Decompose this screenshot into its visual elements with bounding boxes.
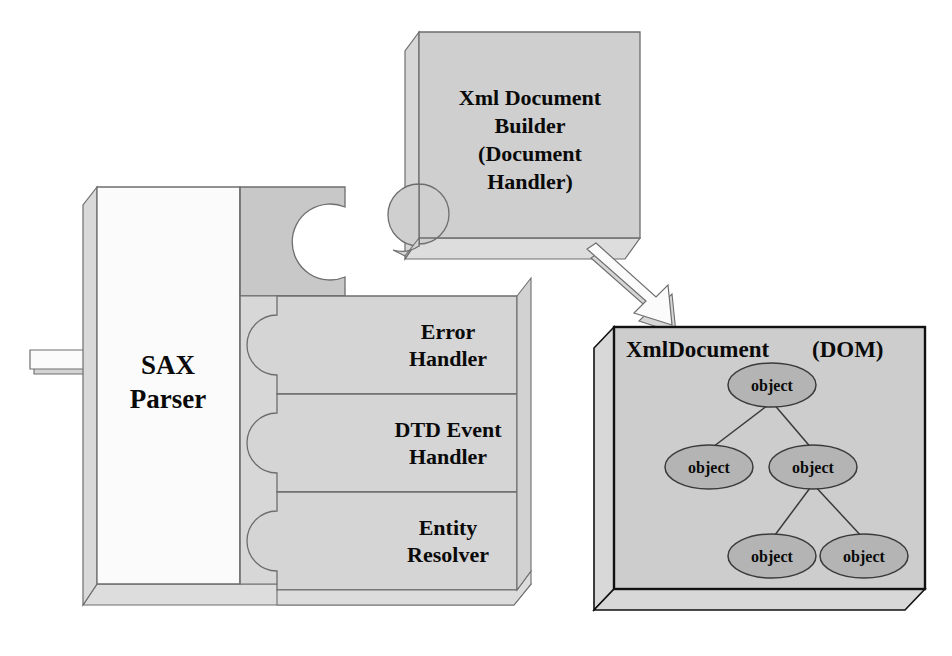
handler-entity-line1: Entity <box>419 515 478 540</box>
handler-error-line2: Handler <box>409 346 487 371</box>
xml-document-builder-block[interactable]: Xml Document Builder (Document Handler) <box>388 32 640 259</box>
handler-block-error-handler[interactable]: Error Handler <box>247 296 517 394</box>
handler-dtd-line1: DTD Event <box>395 417 503 442</box>
builder-label-line3: (Document <box>478 141 583 166</box>
sax-parser-label-line1: SAX <box>141 350 196 380</box>
builder-to-dom-arrow <box>587 243 676 333</box>
architecture-diagram: SAX Parser Error Handler DTD Event Handl… <box>0 0 952 656</box>
dom-node-label: object <box>688 459 730 477</box>
dom-node-label: object <box>792 459 834 477</box>
handler-entity-line2: Resolver <box>407 542 489 567</box>
dom-tree-node[interactable]: object <box>820 534 908 578</box>
builder-label-line4: Handler) <box>487 169 573 194</box>
dom-tree-node[interactable]: object <box>728 363 816 407</box>
dom-node-label: object <box>751 548 793 566</box>
dom-node-label: object <box>843 548 885 566</box>
handler-stack-side <box>517 278 531 590</box>
dom-box-title: XmlDocument <box>626 337 769 362</box>
handler-dtd-line2: Handler <box>409 444 487 469</box>
diagram-canvas: SAX Parser Error Handler DTD Event Handl… <box>0 0 952 656</box>
dom-node-label: object <box>751 377 793 395</box>
builder-label-line1: Xml Document <box>459 85 602 110</box>
dom-tree-node[interactable]: object <box>728 534 816 578</box>
dom-tree-node[interactable]: object <box>769 445 857 489</box>
builder-label-line2: Builder <box>495 113 566 138</box>
sax-parser-socket-column-top <box>240 187 345 296</box>
builder-connector-tab <box>388 184 419 246</box>
dom-box-subtitle: (DOM) <box>812 337 884 362</box>
handler-block-dtd-event-handler[interactable]: DTD Event Handler <box>247 394 517 492</box>
handler-error-line1: Error <box>421 319 476 344</box>
xml-document-dom-block[interactable]: XmlDocument (DOM) object object object o… <box>594 327 925 610</box>
handler-block-entity-resolver[interactable]: Entity Resolver <box>247 492 517 590</box>
dom-tree-node[interactable]: object <box>665 445 753 489</box>
sax-parser-label-line2: Parser <box>130 384 206 414</box>
